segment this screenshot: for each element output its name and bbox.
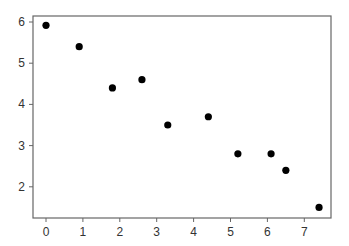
data-point (76, 43, 83, 50)
data-points (42, 22, 322, 211)
x-tick-label: 4 (190, 225, 197, 239)
x-tick-label: 6 (264, 225, 271, 239)
data-point (282, 167, 289, 174)
data-point (164, 121, 171, 128)
y-tick-label: 4 (18, 97, 25, 111)
data-point (205, 113, 212, 120)
x-tick-label: 2 (116, 225, 123, 239)
data-point (234, 150, 241, 157)
data-point (109, 84, 116, 91)
scatter-chart: 01234567 23456 (0, 0, 349, 246)
x-tick-label: 3 (153, 225, 160, 239)
x-axis: 01234567 (43, 218, 308, 239)
x-tick-label: 1 (80, 225, 87, 239)
y-tick-label: 3 (18, 139, 25, 153)
y-axis: 23456 (18, 15, 33, 194)
data-point (315, 204, 322, 211)
x-tick-label: 0 (43, 225, 50, 239)
y-tick-label: 2 (18, 180, 25, 194)
data-point (267, 150, 274, 157)
data-point (42, 22, 49, 29)
data-point (138, 76, 145, 83)
y-tick-label: 5 (18, 56, 25, 70)
y-tick-label: 6 (18, 15, 25, 29)
x-tick-label: 7 (301, 225, 308, 239)
x-tick-label: 5 (227, 225, 234, 239)
